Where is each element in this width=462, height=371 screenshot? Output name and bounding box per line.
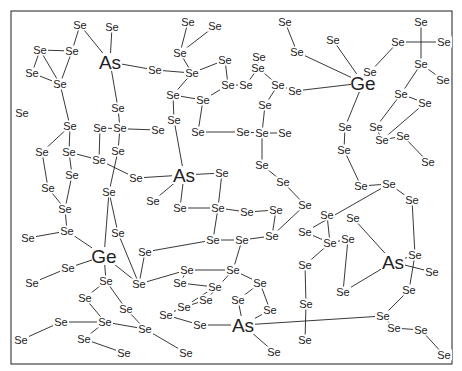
atom-se: Se bbox=[138, 246, 151, 258]
atom-se: Se bbox=[173, 47, 186, 59]
atom-as: As bbox=[232, 315, 254, 336]
atom-se: Se bbox=[267, 346, 280, 358]
atom-se: Se bbox=[341, 233, 354, 245]
atom-se: Se bbox=[25, 277, 38, 289]
atom-se: Se bbox=[436, 74, 449, 86]
atom-se: Se bbox=[193, 319, 206, 331]
atom-se: Se bbox=[146, 195, 159, 207]
bond-line bbox=[145, 240, 213, 252]
atom-se: Se bbox=[61, 262, 74, 274]
bond-line bbox=[100, 128, 158, 130]
atom-se: Se bbox=[375, 134, 388, 146]
atom-se: Se bbox=[208, 20, 221, 32]
atom-se: Se bbox=[21, 232, 34, 244]
atom-as: As bbox=[382, 252, 404, 273]
atom-se: Se bbox=[181, 16, 194, 28]
atom-se: Se bbox=[73, 19, 86, 31]
atom-se: Se bbox=[15, 107, 28, 119]
atom-se: Se bbox=[14, 334, 27, 346]
atom-se: Se bbox=[408, 249, 421, 261]
atom-se: Se bbox=[288, 85, 301, 97]
atom-se: Se bbox=[323, 237, 336, 249]
atom-se: Se bbox=[437, 36, 450, 48]
atom-se: Se bbox=[255, 127, 268, 139]
atom-se: Se bbox=[255, 159, 268, 171]
atom-as: As bbox=[99, 52, 121, 73]
atom-se: Se bbox=[159, 309, 172, 321]
atom-se: Se bbox=[354, 180, 367, 192]
atom-se: Se bbox=[93, 122, 106, 134]
atom-se: Se bbox=[363, 66, 376, 78]
atom-se: Se bbox=[265, 230, 278, 242]
atom-se: Se bbox=[111, 102, 124, 114]
atom-se: Se bbox=[177, 301, 190, 313]
atom-se: Se bbox=[111, 145, 124, 157]
atom-se: Se bbox=[60, 225, 73, 237]
atom-se: Se bbox=[414, 324, 427, 336]
atom-se: Se bbox=[206, 234, 219, 246]
glass-network-diagram: AsAsGeGeAsAsSeSeSeSeSeSeSeSeSeSeSeSeSeSe… bbox=[0, 0, 462, 371]
atom-se: Se bbox=[111, 227, 124, 239]
atom-se: Se bbox=[132, 278, 145, 290]
atom-se: Se bbox=[167, 114, 180, 126]
atom-se: Se bbox=[263, 304, 276, 316]
atom-se: Se bbox=[102, 186, 115, 198]
atom-se: Se bbox=[396, 130, 409, 142]
atom-se: Se bbox=[179, 347, 192, 359]
atom-se: Se bbox=[437, 349, 450, 361]
atom-se: Se bbox=[394, 88, 407, 100]
atom-se: Se bbox=[185, 67, 198, 79]
atom-se: Se bbox=[191, 126, 204, 138]
atom-ge: Ge bbox=[91, 246, 116, 267]
atom-se: Se bbox=[33, 44, 46, 56]
atom-se: Se bbox=[211, 202, 224, 214]
atom-se: Se bbox=[173, 277, 186, 289]
atom-se: Se bbox=[382, 178, 395, 190]
atom-se: Se bbox=[78, 292, 91, 304]
atom-se: Se bbox=[35, 146, 48, 158]
atom-se: Se bbox=[252, 51, 265, 63]
atom-se: Se bbox=[405, 194, 418, 206]
bond-line bbox=[243, 316, 383, 325]
atom-se: Se bbox=[269, 204, 282, 216]
atom-se: Se bbox=[62, 146, 75, 158]
atom-se: Se bbox=[320, 209, 333, 221]
atom-se: Se bbox=[129, 172, 142, 184]
atom-se: Se bbox=[54, 316, 67, 328]
atom-se: Se bbox=[425, 266, 438, 278]
atom-se: Se bbox=[199, 294, 212, 306]
atom-se: Se bbox=[25, 67, 38, 79]
bond-line bbox=[343, 239, 348, 292]
atom-se: Se bbox=[119, 303, 132, 315]
atom-se: Se bbox=[180, 264, 193, 276]
atom-se: Se bbox=[298, 334, 311, 346]
atom-se: Se bbox=[166, 89, 179, 101]
atom-se: Se bbox=[240, 206, 253, 218]
atom-se: Se bbox=[231, 294, 244, 306]
atom-se: Se bbox=[299, 298, 312, 310]
atom-se: Se bbox=[92, 154, 105, 166]
bond-line bbox=[305, 184, 389, 232]
atom-se: Se bbox=[235, 234, 248, 246]
atom-se: Se bbox=[387, 322, 400, 334]
atom-se: Se bbox=[58, 203, 71, 215]
atom-se: Se bbox=[221, 79, 234, 91]
atom-se: Se bbox=[65, 169, 78, 181]
atom-se: Se bbox=[271, 79, 284, 91]
atom-se: Se bbox=[98, 316, 111, 328]
atom-se: Se bbox=[421, 156, 434, 168]
atom-se: Se bbox=[117, 347, 130, 359]
bond-line bbox=[412, 200, 415, 255]
atom-se: Se bbox=[208, 281, 221, 293]
atom-se: Se bbox=[278, 127, 291, 139]
atom-se: Se bbox=[196, 94, 209, 106]
atom-se: Se bbox=[414, 58, 427, 70]
atom-se: Se bbox=[253, 277, 266, 289]
atom-se: Se bbox=[298, 226, 311, 238]
atom-se: Se bbox=[236, 126, 249, 138]
atom-se: Se bbox=[376, 310, 389, 322]
atom-se: Se bbox=[337, 144, 350, 156]
atoms-layer: AsAsGeGeAsAsSeSeSeSeSeSeSeSeSeSeSeSeSeSe… bbox=[13, 16, 452, 361]
atom-se: Se bbox=[148, 64, 161, 76]
atom-se: Se bbox=[173, 202, 186, 214]
